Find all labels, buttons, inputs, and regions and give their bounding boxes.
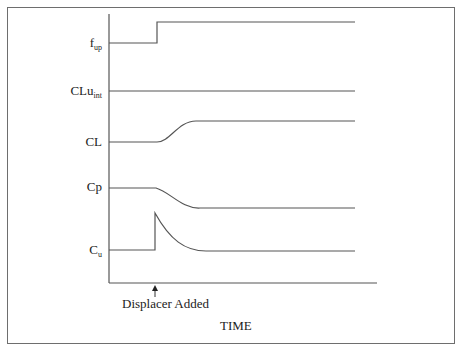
series-cp-line bbox=[109, 188, 355, 208]
label-cl: CL bbox=[12, 135, 102, 149]
label-cl-base: CL bbox=[85, 134, 102, 149]
label-cu-base: C bbox=[89, 242, 98, 257]
series-fup-line bbox=[109, 22, 355, 43]
x-axis-label: TIME bbox=[220, 318, 252, 334]
label-fup-sub: up bbox=[94, 43, 102, 52]
annotation-displacer-added: Displacer Added bbox=[122, 296, 209, 312]
label-cu-sub: u bbox=[98, 250, 102, 259]
label-cu: Cu bbox=[12, 243, 102, 262]
label-cp-base: Cp bbox=[87, 179, 102, 194]
series-cl-line bbox=[109, 121, 355, 142]
series-cu-line bbox=[109, 213, 355, 251]
label-cluint: CLuint bbox=[12, 84, 102, 103]
label-cp: Cp bbox=[12, 180, 102, 194]
label-fup: fup bbox=[12, 36, 102, 55]
label-cluint-sub: int bbox=[94, 91, 102, 100]
label-cluint-base: CLu bbox=[70, 83, 93, 98]
